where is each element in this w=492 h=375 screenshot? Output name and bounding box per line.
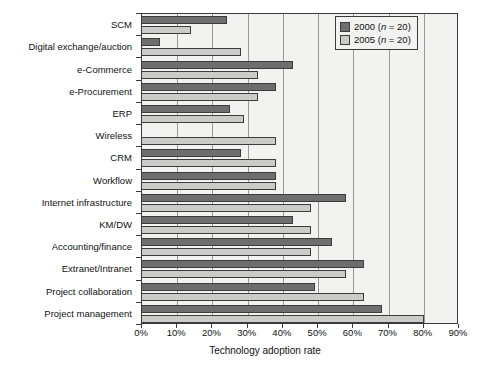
bar-row: [142, 303, 457, 324]
bar-2005: [142, 159, 276, 167]
bar-2000: [142, 172, 276, 180]
bar-2000: [142, 105, 230, 113]
bar-2000: [142, 38, 160, 46]
bar-rows: [142, 14, 457, 323]
bar-2005: [142, 115, 244, 123]
bar-row: [142, 170, 457, 192]
plot-area: [141, 13, 458, 324]
bar-2000: [142, 149, 241, 157]
legend: 2000 (n = 20)2005 (n = 20): [335, 16, 418, 50]
x-axis-tick-label: 40%: [272, 327, 291, 338]
legend-swatch-2005: [340, 35, 350, 45]
x-axis-tick-label: 50%: [308, 327, 327, 338]
bar-row: [142, 214, 457, 236]
bar-row: [142, 258, 457, 280]
bar-2005: [142, 293, 364, 301]
legend-label: 2000 (n = 20): [354, 20, 411, 33]
x-axis-tick-label: 60%: [343, 327, 362, 338]
bar-2000: [142, 83, 276, 91]
bar-row: [142, 103, 457, 125]
y-axis-label: e-Commerce: [77, 63, 132, 74]
x-axis-tick-label: 20%: [202, 327, 221, 338]
bar-row: [142, 58, 457, 80]
bar-2005: [142, 182, 276, 190]
bar-2000: [142, 16, 227, 24]
bar-2005: [142, 315, 424, 323]
bar-2005: [142, 26, 191, 34]
legend-item: 2005 (n = 20): [340, 33, 411, 46]
legend-label: 2005 (n = 20): [354, 33, 411, 46]
y-axis-label: Workflow: [93, 174, 132, 185]
x-axis-title-text: Technology adoption rate: [209, 345, 321, 356]
bar-row: [142, 125, 457, 147]
y-axis-label: CRM: [110, 152, 132, 163]
bar-2000: [142, 305, 382, 313]
legend-item: 2000 (n = 20): [340, 20, 411, 33]
bar-2005: [142, 137, 276, 145]
x-axis-tick-label: 80%: [413, 327, 432, 338]
x-axis-tick-label: 0%: [134, 327, 148, 338]
legend-swatch-2000: [340, 22, 350, 32]
y-axis-label: Wireless: [96, 130, 132, 141]
bar-row: [142, 281, 457, 303]
y-axis-label: ERP: [112, 107, 132, 118]
bar-2005: [142, 93, 258, 101]
x-axis-labels: 0%10%20%30%40%50%60%70%80%90%: [0, 327, 492, 343]
bar-2005: [142, 248, 311, 256]
y-axis-label: SCM: [111, 19, 132, 30]
bar-2000: [142, 283, 315, 291]
bar-2005: [142, 270, 346, 278]
y-axis-label: KM/DW: [99, 219, 132, 230]
bar-2000: [142, 61, 293, 69]
chart-figure: SCMDigital exchange/auctione-Commercee-P…: [0, 0, 492, 375]
x-axis-title: Technology adoption rate: [0, 345, 492, 356]
bar-2005: [142, 71, 258, 79]
bar-row: [142, 192, 457, 214]
bar-2005: [142, 204, 311, 212]
bar-2000: [142, 194, 346, 202]
y-axis-label: Accounting/finance: [52, 241, 132, 252]
bar-row: [142, 236, 457, 258]
y-axis-label: Extranet/Intranet: [62, 263, 132, 274]
bar-row: [142, 147, 457, 169]
bar-2000: [142, 260, 364, 268]
bar-2005: [142, 48, 241, 56]
y-axis-label: e-Procurement: [69, 85, 132, 96]
bar-2000: [142, 238, 332, 246]
y-axis-label: Project management: [44, 307, 132, 318]
y-axis-label: Digital exchange/auction: [28, 41, 132, 52]
y-axis-label: Project collaboration: [46, 285, 132, 296]
y-axis-label: Internet infrastructure: [42, 196, 132, 207]
bar-row: [142, 81, 457, 103]
x-axis-tick-label: 90%: [448, 327, 467, 338]
y-axis: SCMDigital exchange/auctione-Commercee-P…: [0, 13, 141, 324]
x-axis-tick-label: 10%: [167, 327, 186, 338]
x-axis-tick-label: 30%: [237, 327, 256, 338]
bar-2000: [142, 216, 293, 224]
x-axis-tick-label: 70%: [378, 327, 397, 338]
bar-2005: [142, 226, 311, 234]
